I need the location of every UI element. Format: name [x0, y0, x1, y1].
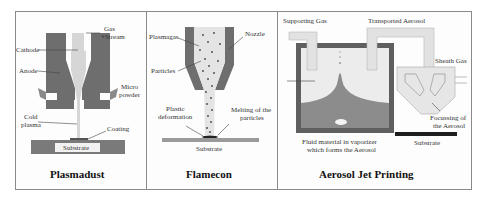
panel-title-aerosol-jet: Aerosol Jet Printing [319, 168, 414, 180]
label-coating: Coating [107, 125, 130, 133]
label-gas-stream-2: +Stream [101, 33, 125, 41]
panel-aerosol-jet: Supporting Gas Transported Aerosol Sheat… [283, 17, 467, 180]
label-particles: Particles [151, 67, 175, 75]
label-substrate: Substrate [414, 139, 440, 147]
label-focussing-2: the Aerosol [433, 122, 465, 130]
label-substrate: Substrate [196, 145, 222, 153]
anode-left-shape [46, 33, 75, 100]
label-sheath-gas: Sheath Gas [435, 57, 467, 65]
label-cathode: Cathode [16, 46, 39, 54]
substrate-bar [162, 138, 259, 142]
label-supporting-gas: Supporting Gas [283, 17, 327, 25]
label-cold-plasma: Cold [24, 113, 38, 121]
label-micro-powder: Micro [121, 83, 139, 91]
substrate-bar [395, 132, 457, 136]
label-melting-2: particles [240, 114, 264, 122]
label-fluid-material-2: which forms the Aerosol [307, 146, 376, 154]
lower-block-left [46, 100, 74, 109]
label-cold-plasma-2: plasma [21, 121, 42, 129]
diagram-canvas: Gas +Stream Cathode Anode Micro powder C… [0, 0, 487, 201]
anode-right-shape [82, 33, 110, 100]
label-transported-aerosol: Transported Aerosol [368, 17, 425, 25]
label-plasmagas: Plasmagas [149, 33, 179, 41]
powder-inlet-right [110, 88, 118, 100]
label-micro-powder-2: powder [119, 91, 141, 99]
panel-flamecon: Plasmagas Nozzle Particles Plastic defor… [149, 27, 271, 180]
label-plastic-deformation: Plastic [166, 105, 185, 113]
panel-title-flamecon: Flamecon [186, 168, 232, 180]
label-fluid-material: Fluid material in vaporizer [302, 138, 378, 146]
ultrasonic-element [335, 119, 347, 125]
lower-block-right [84, 100, 110, 109]
label-substrate: Substrate [63, 144, 89, 152]
panel-plasmadust: Gas +Stream Cathode Anode Micro powder C… [16, 25, 141, 180]
powder-inlet-left [38, 88, 46, 100]
label-plastic-deformation-2: deformation [158, 113, 193, 121]
label-gas-stream: Gas [104, 25, 115, 33]
label-nozzle: Nozzle [245, 30, 265, 38]
label-melting: Melting of the [231, 106, 271, 114]
label-focussing: Focussing of [430, 114, 467, 122]
panel-title-plasmadust: Plasmadust [50, 168, 105, 180]
label-anode: Anode [19, 67, 38, 75]
coating-layer [70, 138, 88, 140]
